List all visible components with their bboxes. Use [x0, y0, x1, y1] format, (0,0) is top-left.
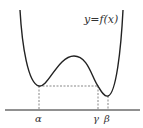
gamma-label: γ — [93, 113, 99, 124]
beta-label: β — [103, 113, 110, 124]
function-label: y=f(x) — [83, 13, 118, 26]
alpha-label: α — [35, 113, 42, 124]
function-graph: y=f(x) α γ β — [0, 0, 143, 128]
